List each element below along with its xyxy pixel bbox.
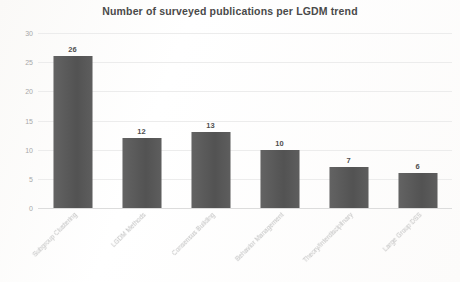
bar-slot-subgroup-clustering: 26 xyxy=(38,33,107,208)
x-label-slot-4: Behavior Management xyxy=(245,211,314,281)
x-label-slot-1: Subgroup Clustering xyxy=(38,211,107,281)
bar-slot-large-group-dss: 6 xyxy=(383,33,452,208)
bar-slot-theory-interdisciplinary: 7 xyxy=(314,33,383,208)
x-label-slot-5: Theory/Interdisciplinary xyxy=(314,211,383,281)
bar-value-large-group-dss: 6 xyxy=(415,162,419,171)
x-label-slot-6: Large Group DSS xyxy=(383,211,452,281)
bar-theory-interdisciplinary[interactable] xyxy=(329,167,368,208)
x-label-subgroup-clustering: Subgroup Clustering xyxy=(31,211,78,258)
y-tick-10: 10 xyxy=(25,146,33,153)
chart-title: Number of surveyed publications per LGDM… xyxy=(0,5,460,17)
bar-consensus-building[interactable] xyxy=(191,132,230,208)
bar-value-subgroup-clustering: 26 xyxy=(68,45,76,54)
y-tick-15: 15 xyxy=(25,117,33,124)
bar-value-lgdm-methods: 12 xyxy=(137,127,145,136)
x-label-consensus-building: Consensus Building xyxy=(170,211,216,257)
x-label-slot-2: LGDM Methods xyxy=(107,211,176,281)
axis-baseline: 0 xyxy=(38,208,452,209)
x-axis-labels: Subgroup Clustering LGDM Methods Consens… xyxy=(38,211,452,281)
bar-slot-consensus-building: 13 xyxy=(176,33,245,208)
x-label-lgdm-methods: LGDM Methods xyxy=(109,211,146,248)
y-tick-20: 20 xyxy=(25,88,33,95)
y-tick-0: 0 xyxy=(29,205,33,212)
y-tick-5: 5 xyxy=(29,175,33,182)
bar-subgroup-clustering[interactable] xyxy=(53,56,92,208)
y-tick-25: 25 xyxy=(25,59,33,66)
plot-area: 30 25 20 15 10 5 0 xyxy=(38,33,452,208)
bar-series: 26 12 13 10 7 xyxy=(38,33,452,208)
x-label-large-group-dss: Large Group DSS xyxy=(381,211,422,252)
bar-large-group-dss[interactable] xyxy=(398,173,437,208)
bar-value-theory-interdisciplinary: 7 xyxy=(346,156,350,165)
chart-page: Number of surveyed publications per LGDM… xyxy=(0,0,460,282)
bar-slot-behavior-management: 10 xyxy=(245,33,314,208)
bar-slot-lgdm-methods: 12 xyxy=(107,33,176,208)
bar-value-behavior-management: 10 xyxy=(275,139,283,148)
x-label-slot-3: Consensus Building xyxy=(176,211,245,281)
bar-chart: Number of surveyed publications per LGDM… xyxy=(0,0,460,282)
bar-value-consensus-building: 13 xyxy=(206,121,214,130)
bar-lgdm-methods[interactable] xyxy=(122,138,161,208)
y-tick-30: 30 xyxy=(25,30,33,37)
bar-behavior-management[interactable] xyxy=(260,150,299,208)
